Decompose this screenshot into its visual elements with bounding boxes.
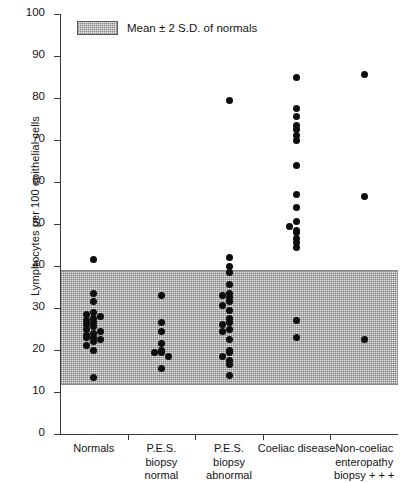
y-tick-label-90: 90 [32, 48, 45, 60]
y-tick-30: 30 [54, 308, 60, 309]
x-tick-2 [195, 434, 196, 440]
y-tick-20: 20 [54, 350, 60, 351]
x-category-label-line: enteropathy [319, 456, 402, 470]
data-point [293, 218, 300, 225]
data-point [293, 74, 300, 81]
x-axis-line [60, 434, 398, 435]
y-tick-label-20: 20 [32, 342, 45, 354]
y-tick-label-50: 50 [32, 216, 45, 228]
x-tick-4 [330, 434, 331, 440]
data-point [226, 336, 233, 343]
y-tick-label-60: 60 [32, 174, 45, 186]
data-point [226, 97, 233, 104]
y-tick-0: 0 [54, 434, 60, 435]
y-tick-60: 60 [54, 182, 60, 183]
data-point [226, 269, 233, 276]
data-point [226, 326, 233, 333]
data-point [293, 204, 300, 211]
data-point [293, 334, 300, 341]
data-point [165, 353, 172, 360]
y-tick-100: 100 [54, 14, 60, 15]
data-point [226, 254, 233, 261]
legend: Mean ± 2 S.D. of normals [77, 21, 257, 35]
plot-area: 1009080706050403020100 [60, 14, 398, 434]
y-tick-label-80: 80 [32, 90, 45, 102]
x-category-label-line: abnormal [184, 469, 274, 483]
data-point [90, 256, 97, 263]
y-tick-label-30: 30 [32, 300, 45, 312]
x-category-label-line: Non-coeliac [319, 442, 402, 456]
legend-label: Mean ± 2 S.D. of normals [127, 22, 257, 34]
data-point [219, 292, 226, 299]
data-point [226, 307, 233, 314]
data-point [226, 298, 233, 305]
data-point [158, 349, 165, 356]
data-point [293, 162, 300, 169]
data-point [293, 113, 300, 120]
data-point [219, 353, 226, 360]
data-point [219, 302, 226, 309]
y-axis-title: Lymphocytes per 100 epithelial cells [29, 76, 41, 336]
y-tick-10: 10 [54, 392, 60, 393]
data-point [158, 292, 165, 299]
data-point [361, 71, 368, 78]
y-tick-label-10: 10 [32, 384, 45, 396]
data-point [90, 347, 97, 354]
data-point [226, 361, 233, 368]
x-category-label-line: biopsy + + + [319, 469, 402, 483]
y-tick-90: 90 [54, 56, 60, 57]
data-point [226, 372, 233, 379]
data-point [293, 137, 300, 144]
data-point [226, 349, 233, 356]
data-point [151, 349, 158, 356]
data-point [293, 244, 300, 251]
data-point [219, 328, 226, 335]
y-tick-40: 40 [54, 266, 60, 267]
data-point [286, 223, 293, 230]
hatched-band-swatch [77, 21, 118, 35]
y-tick-label-0: 0 [39, 426, 45, 438]
data-point [293, 105, 300, 112]
data-point [97, 328, 104, 335]
data-point [158, 328, 165, 335]
y-tick-label-100: 100 [26, 6, 45, 18]
x-tick-1 [128, 434, 129, 440]
y-tick-80: 80 [54, 98, 60, 99]
x-category-label-4: Non-coeliacenteropathybiopsy + + + [319, 442, 402, 483]
y-tick-label-40: 40 [32, 258, 45, 270]
data-point [293, 191, 300, 198]
y-tick-50: 50 [54, 224, 60, 225]
data-point [361, 193, 368, 200]
y-tick-70: 70 [54, 140, 60, 141]
y-tick-label-70: 70 [32, 132, 45, 144]
data-point [361, 336, 368, 343]
data-point [226, 281, 233, 288]
x-category-label-line: biopsy [184, 456, 274, 470]
x-tick-3 [263, 434, 264, 440]
